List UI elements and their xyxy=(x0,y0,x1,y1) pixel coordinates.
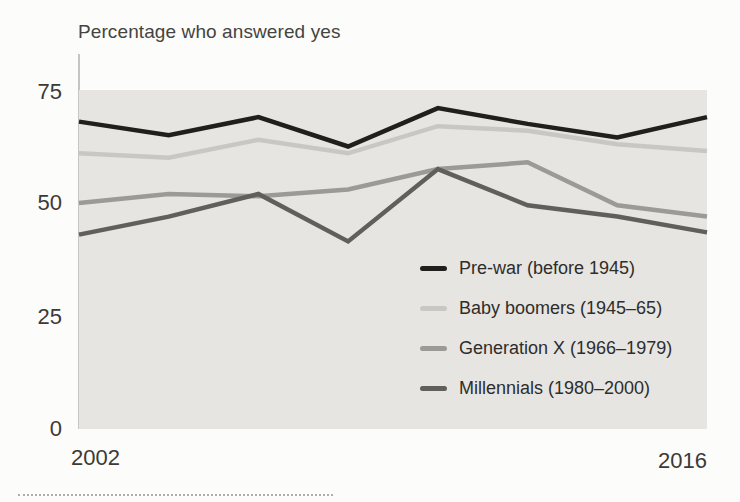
chart-title: Percentage who answered yes xyxy=(78,21,341,43)
legend-label-baby-boomers: Baby boomers (1945–65) xyxy=(459,298,662,319)
y-tick-label-25: 25 xyxy=(0,306,62,328)
legend-label-millennials: Millennials (1980–2000) xyxy=(459,378,650,399)
bottom-dotted-rule xyxy=(18,494,333,496)
legend: Pre-war (before 1945) Baby boomers (1945… xyxy=(420,256,672,416)
pre-war-line-swatch-icon xyxy=(420,266,447,271)
series-line-2 xyxy=(79,162,707,216)
figure-root: Percentage who answered yes 75 50 25 0 P… xyxy=(0,0,740,502)
x-tick-label-2016: 2016 xyxy=(600,450,707,472)
legend-item-millennials: Millennials (1980–2000) xyxy=(420,376,672,400)
generation-x-line-swatch-icon xyxy=(420,346,447,351)
baby-boomers-line-swatch-icon xyxy=(420,306,447,311)
legend-label-generation-x: Generation X (1966–1979) xyxy=(459,338,672,359)
legend-item-baby-boomers: Baby boomers (1945–65) xyxy=(420,296,672,320)
legend-item-pre-war: Pre-war (before 1945) xyxy=(420,256,672,280)
y-tick-label-50: 50 xyxy=(0,192,62,214)
legend-item-generation-x: Generation X (1966–1979) xyxy=(420,336,672,360)
legend-label-pre-war: Pre-war (before 1945) xyxy=(459,258,635,279)
y-tick-label-0: 0 xyxy=(0,418,62,440)
series-line-1 xyxy=(79,126,707,158)
y-tick-label-75: 75 xyxy=(0,81,62,103)
millennials-line-swatch-icon xyxy=(420,386,447,391)
x-tick-label-2002: 2002 xyxy=(71,447,120,469)
